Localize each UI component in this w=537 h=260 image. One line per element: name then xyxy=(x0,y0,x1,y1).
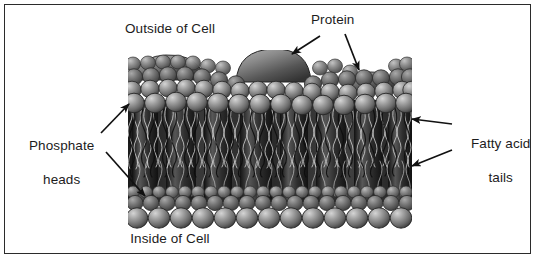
arrow-fatty-to-lower xyxy=(412,150,452,166)
label-phosphate-heads: Phosphate heads xyxy=(6,120,102,205)
label-phosphate-heads-line2: heads xyxy=(43,172,80,187)
arrow-fatty-to-upper xyxy=(412,119,452,124)
label-phosphate-heads-line1: Phosphate xyxy=(29,138,94,153)
label-fatty-acid-tails: Fatty acid tails xyxy=(455,118,531,203)
label-fatty-acid-tails-line1: Fatty acid xyxy=(471,136,531,151)
label-protein: Protein xyxy=(311,11,354,28)
arrow-protein-to-small xyxy=(345,34,359,70)
arrow-phosphate-to-upper xyxy=(101,104,129,133)
label-inside-of-cell: Inside of Cell xyxy=(88,230,252,247)
membrane-diagram: Outside of Cell Inside of Cell Protein P… xyxy=(0,0,537,260)
protein-large-dome xyxy=(236,49,311,82)
phosphate-heads-lower xyxy=(126,186,415,228)
arrow-protein-to-dome xyxy=(292,36,320,54)
label-outside-of-cell: Outside of Cell xyxy=(88,20,252,37)
label-fatty-acid-tails-line2: tails xyxy=(488,170,513,185)
membrane-body xyxy=(123,49,421,228)
